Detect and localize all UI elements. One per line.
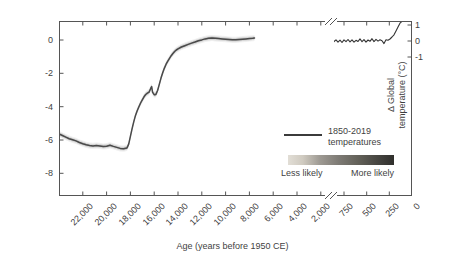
- legend-colorbar-low-label: Less likely: [281, 168, 323, 178]
- x-axis-label: Age (years before 1950 CE): [0, 241, 465, 251]
- ytick-right-1: 1: [415, 20, 439, 30]
- ytick-right-m1: -1: [415, 52, 439, 62]
- y-axis-label-right-line1: Δ Global: [386, 78, 396, 112]
- y-ticks-right: [408, 25, 412, 57]
- y-ticks-left: [60, 40, 64, 173]
- ytick-left-m6: -6: [29, 135, 53, 145]
- legend-line-label-line1: 1850-2019: [328, 126, 371, 136]
- legend-colorbar: [288, 155, 394, 165]
- ytick-left-m8: -8: [29, 168, 53, 178]
- legend-colorbar-high-label: More likely: [351, 168, 394, 178]
- ytick-left-m2: -2: [29, 68, 53, 78]
- ytick-left-0: 0: [29, 35, 53, 45]
- ytick-left-m4: -4: [29, 102, 53, 112]
- reconstruction-median-line: [59, 38, 255, 149]
- legend-line-label-line2: temperatures: [328, 137, 381, 147]
- y-axis-label-right-line2: temperature (°C): [397, 61, 407, 128]
- legend: 1850-2019 temperatures Less likely More …: [284, 126, 410, 182]
- legend-line-label: 1850-2019 temperatures: [328, 126, 412, 148]
- ytick-right-0: 0: [415, 36, 439, 46]
- legend-line-swatch: [284, 134, 322, 136]
- climate-reconstruction-chart: 0 -2 -4 -6 -8 1 0 -1 22,000 20,000 18,00…: [0, 0, 465, 261]
